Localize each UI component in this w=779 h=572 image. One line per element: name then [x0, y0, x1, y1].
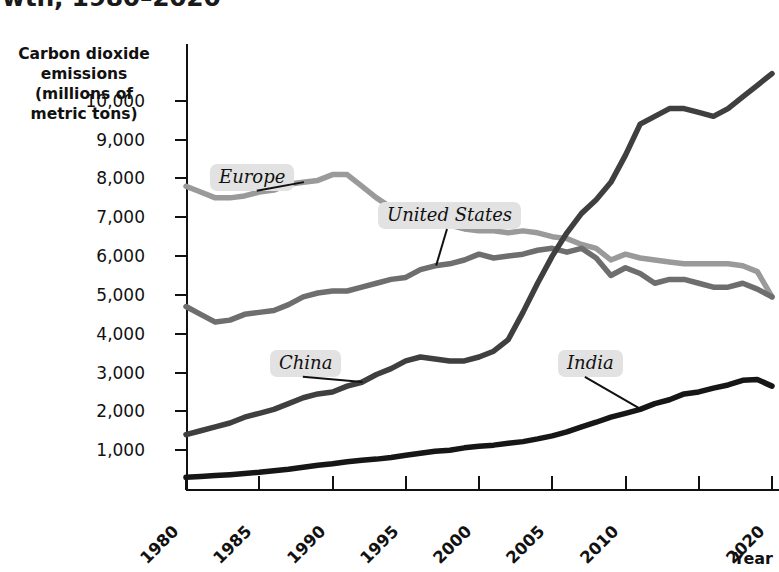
y-tick-label-4000: 4,000 — [96, 324, 145, 344]
chart-title: wth, 1980–2020 — [2, 0, 221, 12]
x-tick-label-1985: 1985 — [210, 522, 256, 568]
x-tick-label-2010: 2010 — [576, 522, 622, 568]
chart-plot-area: 1,0002,0003,0004,0005,0006,0007,0008,000… — [160, 44, 779, 491]
y-tick-label-10000: 10,000 — [86, 91, 145, 111]
x-tick-label-1990: 1990 — [283, 522, 329, 568]
callout-united-states: United States — [378, 202, 521, 229]
y-tick-label-2000: 2,000 — [96, 401, 145, 421]
callout-china: China — [270, 350, 341, 377]
y-tick-label-1000: 1,000 — [96, 440, 145, 460]
y-tick-label-9000: 9,000 — [96, 130, 145, 150]
y-axis-label: Carbon dioxideemissions(millions ofmetri… — [14, 44, 154, 124]
series-lines — [160, 44, 779, 491]
x-tick-label-1980: 1980 — [137, 522, 183, 568]
callout-india: India — [558, 350, 623, 377]
x-tick-label-2000: 2000 — [430, 522, 476, 568]
x-tick-label-1995: 1995 — [356, 522, 402, 568]
y-axis-label-line-1: emissions — [14, 64, 154, 84]
y-tick-label-7000: 7,000 — [96, 207, 145, 227]
y-tick-label-8000: 8,000 — [96, 168, 145, 188]
x-tick-label-2005: 2005 — [503, 522, 549, 568]
y-tick-label-3000: 3,000 — [96, 363, 145, 383]
series-line-india — [186, 380, 772, 478]
y-axis-label-line-0: Carbon dioxide — [14, 44, 154, 64]
series-line-united-states — [186, 248, 772, 322]
x-axis-label: Year — [733, 549, 773, 568]
y-tick-label-5000: 5,000 — [96, 285, 145, 305]
y-tick-label-6000: 6,000 — [96, 246, 145, 266]
